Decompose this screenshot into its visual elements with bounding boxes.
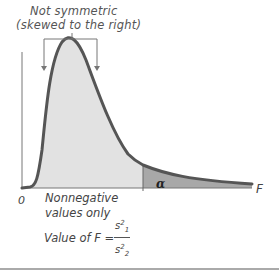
- nonnegative-note-line-1: Nonnegative: [45, 193, 118, 205]
- f-distribution-diagram: Not symmetric (skewed to the right) α F …: [0, 0, 279, 271]
- alpha-label: α: [156, 178, 165, 190]
- x-axis-label: F: [256, 183, 263, 195]
- f-distribution-plot: [0, 0, 279, 271]
- denominator-sub: 2: [125, 250, 129, 258]
- f-denominator: s22: [115, 244, 129, 258]
- value-of-f-label: Value of F =: [44, 233, 114, 245]
- f-numerator: s21: [115, 220, 129, 234]
- numerator-sub: 1: [125, 226, 129, 234]
- bottom-divider: [0, 268, 279, 270]
- origin-label: 0: [18, 195, 25, 206]
- nonnegative-note-line-2: values only: [45, 208, 110, 220]
- annotation-line-1: Not symmetric: [30, 6, 117, 18]
- annotation-line-2: (skewed to the right): [16, 20, 141, 32]
- fraction-bar: [114, 237, 130, 238]
